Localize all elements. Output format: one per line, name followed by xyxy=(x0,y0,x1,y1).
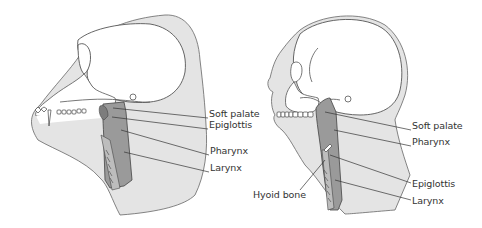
human-label-hyoid-bone: Hyoid bone xyxy=(253,189,306,200)
human-label-larynx: Larynx xyxy=(412,195,444,206)
vocal-tract-comparison-diagram: Soft palate Epiglottis Pharynx Larynx So… xyxy=(0,0,482,228)
chimp-label-larynx: Larynx xyxy=(210,162,242,173)
chimpanzee-head xyxy=(32,15,210,215)
chimp-mastoid xyxy=(130,94,136,100)
human-label-pharynx: Pharynx xyxy=(412,136,450,147)
chimp-label-epiglottis: Epiglottis xyxy=(209,119,252,130)
human-label-epiglottis: Epiglottis xyxy=(412,178,455,189)
chimp-label-pharynx: Pharynx xyxy=(210,145,248,156)
human-head xyxy=(268,16,411,214)
human-mastoid xyxy=(345,96,351,102)
human-label-soft-palate: Soft palate xyxy=(412,120,463,131)
human-teeth xyxy=(277,112,313,117)
chimp-label-soft-palate: Soft palate xyxy=(209,108,260,119)
